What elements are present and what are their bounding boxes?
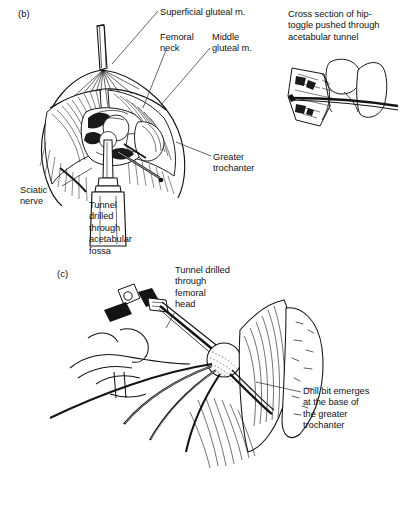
pelvis-outline-c [70, 329, 190, 398]
middle-gluteal-label: Middle gluteal m. [212, 32, 276, 55]
hip-toggle-cross-section-inset [288, 59, 398, 126]
panel-b-tag: (b) [18, 8, 30, 19]
surgical-illustration-figure: (b) (c) Superficial gluteal m. Femoral n… [0, 0, 400, 513]
retractor-instrument-b [97, 25, 107, 70]
sciatic-nerve-label: Sciatic nerve [20, 185, 74, 208]
leader-superficial-gluteal [112, 11, 158, 64]
panel-c-tag: (c) [57, 268, 68, 279]
superficial-gluteal-label: Superficial gluteal m. [160, 7, 292, 18]
leader-greater-trochanter [176, 142, 211, 156]
panel-c-artwork [50, 284, 323, 468]
drill-handle-c [104, 284, 168, 322]
femoral-neck-label: Femoral neck [160, 32, 212, 55]
greater-trochanter-label-b: Greater trochanter [213, 152, 285, 175]
cross-section-inset-caption: Cross section of hip- toggle pushed thro… [288, 9, 400, 43]
femoral-head-tunnel-label: Tunnel drilled through femoral head [175, 265, 259, 311]
leader-femoral-neck [143, 50, 166, 108]
leader-middle-gluteal [160, 48, 210, 106]
femoral-head-c [207, 343, 241, 382]
drill-bit-emerges-label: Drill bit emerges at the base of the gre… [303, 386, 400, 432]
figure-artwork [0, 0, 400, 513]
acetabular-tunnel-label: Tunnel drilled through acetabular fossa [89, 200, 161, 257]
